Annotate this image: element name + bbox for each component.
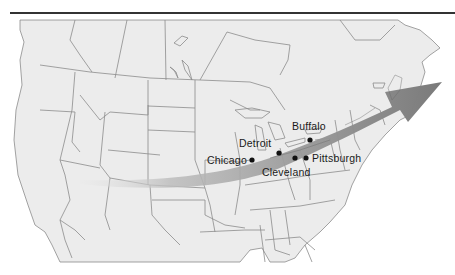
north-america-map [0, 0, 455, 275]
city-label-chicago: Chicago [207, 154, 247, 166]
city-dot-pittsburgh [303, 155, 308, 160]
city-dot-buffalo [307, 137, 312, 142]
city-label-cleveland: Cleveland [262, 166, 311, 178]
city-label-pittsburgh: Pittsburgh [312, 152, 361, 164]
city-dot-chicago [249, 157, 254, 162]
city-dot-detroit [276, 150, 281, 155]
city-dot-cleveland [292, 155, 297, 160]
city-label-buffalo: Buffalo [292, 120, 326, 132]
city-label-detroit: Detroit [239, 137, 271, 149]
